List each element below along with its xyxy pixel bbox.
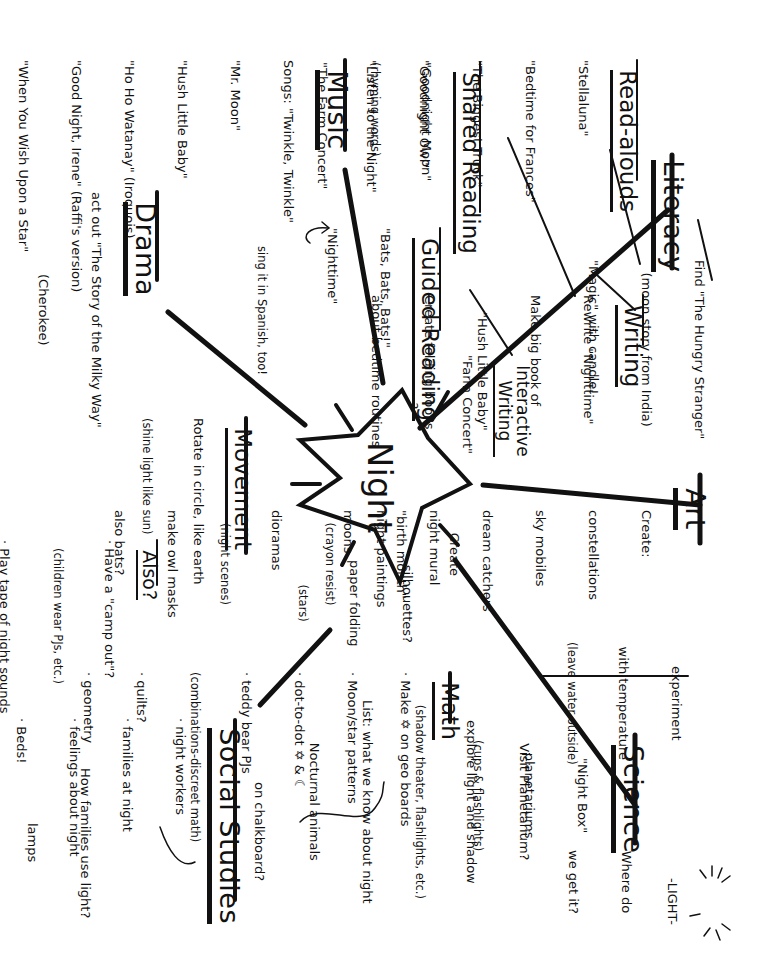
light-label: -LIGHT- <box>646 878 718 925</box>
interactive-writing-heading: InteractiveWriting <box>493 365 531 457</box>
also-heading: Also? <box>136 550 161 600</box>
social-studies-heading: Social Studies <box>207 728 245 924</box>
art-extra2: -silhouettes? paper folding (stars) <box>277 560 453 646</box>
also-group: Also? · Have a "camp out"? (children wea… <box>0 540 180 754</box>
music-heading: Music <box>315 70 353 149</box>
branch-art <box>483 485 700 505</box>
music-note: sing it in Spanish, too! <box>236 246 306 375</box>
shared-reading-heading: Shared Reading <box>453 72 484 254</box>
math-heading: Math <box>432 682 463 740</box>
social-studies-note: How families use light? lamps candles el… <box>0 768 131 918</box>
interactive-writing-group: InteractiveWriting "Farm Concert" ? <box>387 355 550 457</box>
movement-heading: Movement <box>225 428 256 550</box>
science-experiment: experiment with temperature (leave water… <box>546 642 722 765</box>
music-group: Music Songs: "Twinkle, Twinkle" "Mr. Moo… <box>0 60 372 292</box>
writing-heading: Writing <box>615 305 646 387</box>
read-alouds-heading: Read-alouds <box>610 70 641 212</box>
